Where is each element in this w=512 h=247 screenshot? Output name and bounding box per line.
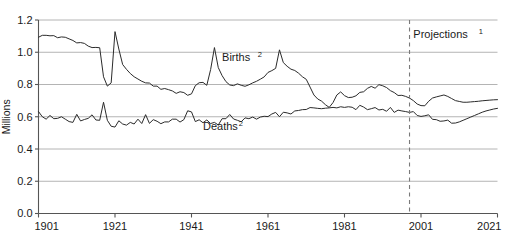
x-tick-label: 1961 <box>256 220 280 232</box>
births-label-superscript: 2 <box>258 50 262 59</box>
y-tick-label: 0.6 <box>17 111 32 123</box>
deaths-label-text: Deaths <box>203 120 238 132</box>
data-series <box>39 32 498 127</box>
projections-label-superscript: 1 <box>479 27 483 36</box>
figure-container: 0.00.20.40.60.81.01.2 190119211941196119… <box>0 0 512 247</box>
x-tick-label: 2021 <box>477 220 501 232</box>
y-tick-label: 0.4 <box>17 143 32 155</box>
x-tick-label: 2001 <box>409 220 433 232</box>
series-line-births <box>39 32 498 108</box>
deaths-label-superscript: 2 <box>239 119 243 128</box>
series-line-deaths <box>39 102 498 127</box>
projections-label-text: Projections <box>413 28 468 40</box>
y-axis-title-text: Millions <box>0 99 12 134</box>
population-line-chart: 0.00.20.40.60.81.01.2 190119211941196119… <box>0 0 512 247</box>
births-label-text: Births <box>222 51 251 63</box>
projections-label: Projections1 <box>413 27 483 40</box>
y-tick-label: 1.2 <box>17 14 32 26</box>
y-tick-label: 1.0 <box>17 46 32 58</box>
x-tick-label: 1901 <box>35 220 59 232</box>
y-tick-label: 0.8 <box>17 78 32 90</box>
y-tick-labels: 0.00.20.40.60.81.01.2 <box>17 14 38 220</box>
y-axis-title: Millions <box>0 99 12 134</box>
deaths-label: Deaths2 <box>203 119 243 132</box>
y-tick-label: 0.2 <box>17 175 32 187</box>
y-tick-label: 0.0 <box>17 207 32 219</box>
x-tick-label: 1941 <box>179 220 203 232</box>
x-tick-label: 1981 <box>332 220 356 232</box>
x-tick-label: 1921 <box>103 220 127 232</box>
x-tick-labels: 1901192119411961198120012021 <box>35 214 502 232</box>
